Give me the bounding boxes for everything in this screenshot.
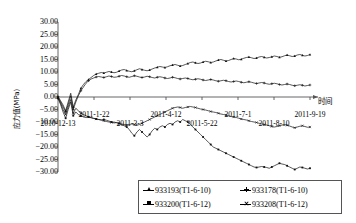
- legend-item-label: 933178(T1-6-10): [252, 186, 308, 195]
- square-marker-icon: [143, 200, 154, 209]
- legend-item-933193[interactable]: 933193(T1-6-10): [143, 183, 240, 197]
- legend-item-label: 933193(T1-6-10): [155, 186, 211, 195]
- legend-item-933200[interactable]: 933200(T1-6-12): [143, 197, 240, 211]
- x-tick-label: 2011-9-19: [295, 111, 326, 119]
- x-tick-label: 2010-12-13: [41, 120, 76, 128]
- x-marker-icon: [240, 200, 251, 209]
- plus-marker-icon: [240, 186, 251, 195]
- stress-time-chart: 应力值(MPa) 30.0025.0020.0015.0010.005.000.…: [0, 0, 356, 223]
- x-tick-label: 2011-3-3: [116, 120, 143, 128]
- legend-row: 933193(T1-6-10) 933178(T1-6-10): [143, 183, 337, 197]
- x-tick-label: 2011-1-22: [79, 111, 110, 119]
- legend-item-933178[interactable]: 933178(T1-6-10): [240, 183, 337, 197]
- legend-item-label: 933200(T1-6-12): [155, 200, 211, 209]
- triangle-marker-icon: [143, 186, 154, 195]
- x-tick-label: 2011-4-12: [151, 111, 182, 119]
- x-tick-label: 2011-5-22: [187, 120, 218, 128]
- x-axis-title: 时间: [318, 95, 332, 106]
- legend-item-933208[interactable]: 933208(T1-6-12): [240, 197, 337, 211]
- x-tick-label: 2011-7-1: [224, 111, 251, 119]
- x-tick-label: 2011-8-10: [259, 120, 290, 128]
- chart-legend: 933193(T1-6-10) 933178(T1-6-10) 933200(T…: [138, 180, 342, 214]
- legend-item-label: 933208(T1-6-12): [252, 200, 308, 209]
- legend-row: 933200(T1-6-12) 933208(T1-6-12): [143, 197, 337, 211]
